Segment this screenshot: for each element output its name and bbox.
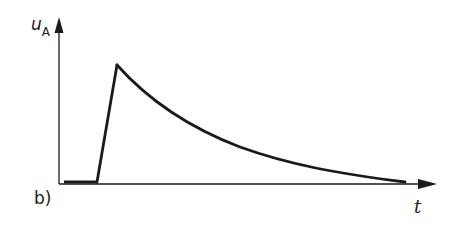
y-axis-arrow-icon	[55, 17, 64, 33]
diagram-canvas	[0, 0, 451, 228]
y-axis-label: uA	[31, 14, 50, 37]
panel-label: b)	[34, 188, 51, 208]
y-axis-symbol: u	[31, 14, 42, 34]
pulse-diagram: uA b) t	[0, 0, 451, 228]
y-axis-subscript: A	[42, 25, 50, 39]
x-axis-arrow-icon	[418, 179, 437, 189]
signal-rise	[97, 65, 117, 182]
x-axis-label: t	[414, 196, 421, 217]
signal-decay	[117, 65, 405, 182]
